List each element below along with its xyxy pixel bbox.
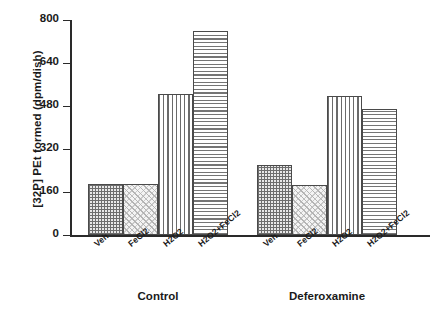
y-axis-line bbox=[70, 20, 72, 235]
y-tick-0: 0 bbox=[63, 235, 70, 236]
y-tick-800: 800 bbox=[63, 20, 70, 21]
y-tick-label-480: 480 bbox=[40, 98, 59, 110]
y-tick-640: 640 bbox=[63, 63, 70, 64]
bar-chart-figure: [32P] PEt formed (dpm/dish) 800 640 480 … bbox=[0, 0, 444, 315]
y-tick-label-800: 800 bbox=[40, 12, 59, 24]
y-tick-480: 480 bbox=[63, 106, 70, 107]
bar-deferoxamine-h2o2 bbox=[327, 96, 362, 235]
y-tick-320: 320 bbox=[63, 149, 70, 150]
group-label-control: Control bbox=[88, 290, 228, 302]
bar-control-h2o2 bbox=[158, 94, 193, 235]
bar-deferoxamine-h2o2-fecl2 bbox=[362, 109, 397, 235]
bar-control-veh bbox=[88, 184, 123, 235]
y-tick-160: 160 bbox=[63, 192, 70, 193]
bar-deferoxamine-veh bbox=[257, 165, 292, 235]
y-tick-label-320: 320 bbox=[40, 141, 59, 153]
y-tick-label-160: 160 bbox=[40, 184, 59, 196]
y-tick-label-640: 640 bbox=[40, 55, 59, 67]
group-label-deferoxamine: Deferoxamine bbox=[257, 290, 397, 302]
y-tick-label-0: 0 bbox=[53, 227, 59, 239]
bar-control-h2o2-fecl2 bbox=[193, 31, 228, 235]
plot-area: 800 640 480 320 160 0 Veh FeCl2 H2O2 H2O… bbox=[70, 20, 430, 235]
